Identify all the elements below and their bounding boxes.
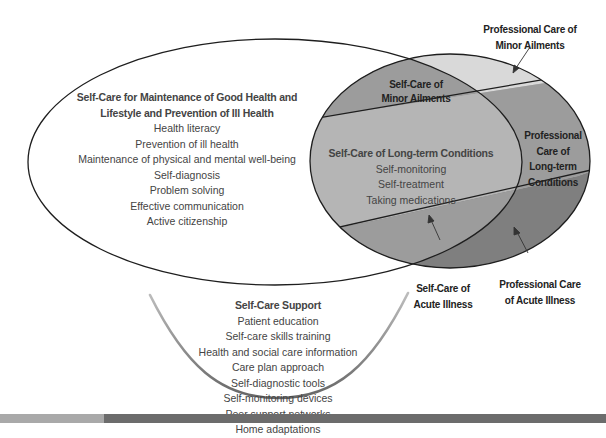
professional-long-term-label: Professional Care of Long-term Condition…	[518, 128, 588, 190]
minor-ailments-line1: Self-Care of	[366, 78, 466, 92]
self-acute-line2: Acute Illness	[408, 297, 478, 313]
support-item: Patient education	[178, 314, 378, 330]
maintenance-block: Self-Care for Maintenance of Good Health…	[62, 90, 312, 230]
support-item: Self-diagnostic tools	[178, 376, 378, 392]
professional-acute-label: Professional Care of Acute Illness	[490, 277, 590, 308]
prof-acute-line2: of Acute Illness	[490, 293, 590, 309]
bottom-bar-light	[0, 414, 104, 423]
support-title: Self-Care Support	[178, 298, 378, 314]
prof-minor-line1: Professional Care of	[470, 22, 590, 38]
plt-line: Professional	[518, 128, 588, 144]
long-term-item: Self-treatment	[326, 177, 496, 193]
prof-minor-line2: Minor Ailments	[470, 38, 590, 54]
bottom-bar-dark	[104, 414, 606, 423]
support-item: Home adaptations	[178, 422, 378, 438]
plt-line: Long-term	[518, 159, 588, 175]
minor-ailments-label: Self-Care of Minor Ailments	[366, 78, 466, 106]
support-item: Self-monitoring devices	[178, 391, 378, 407]
support-item: Care plan approach	[178, 360, 378, 376]
prof-acute-line1: Professional Care	[490, 277, 590, 293]
plt-line: Conditions	[518, 175, 588, 191]
maintenance-item: Prevention of ill health	[62, 137, 312, 153]
maintenance-title-1: Self-Care for Maintenance of Good Health…	[62, 90, 312, 106]
minor-ailments-line2: Minor Ailments	[366, 92, 466, 106]
support-item: Health and social care information	[178, 345, 378, 361]
plt-line: Care of	[518, 144, 588, 160]
long-term-title: Self-Care of Long-term Conditions	[326, 146, 496, 162]
self-acute-line1: Self-Care of	[408, 281, 478, 297]
maintenance-item: Maintenance of physical and mental well-…	[62, 152, 312, 168]
maintenance-title-2: Lifestyle and Prevention of Ill Health	[62, 106, 312, 122]
long-term-item: Self-monitoring	[326, 162, 496, 178]
support-item: Self-care skills training	[178, 329, 378, 345]
maintenance-item: Problem solving	[62, 183, 312, 199]
maintenance-item: Active citizenship	[62, 214, 312, 230]
long-term-item: Taking medications	[326, 193, 496, 209]
self-acute-label: Self-Care of Acute Illness	[408, 281, 478, 312]
long-term-block: Self-Care of Long-term Conditions Self-m…	[326, 146, 496, 208]
maintenance-item: Self-diagnosis	[62, 168, 312, 184]
professional-minor-label: Professional Care of Minor Ailments	[470, 22, 590, 53]
maintenance-item: Health literacy	[62, 121, 312, 137]
maintenance-item: Effective communication	[62, 199, 312, 215]
